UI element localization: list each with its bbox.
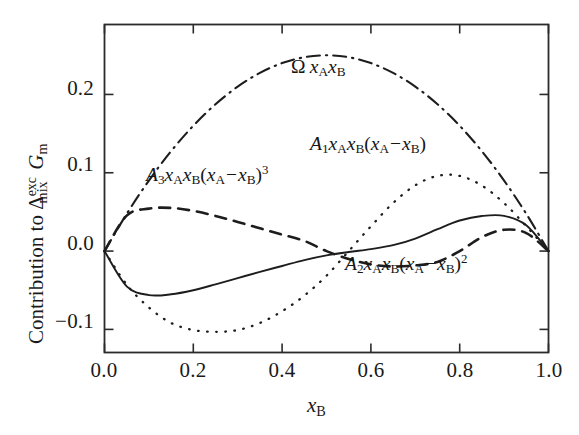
omega-sub-a: A xyxy=(318,64,328,79)
a3-index: 3 xyxy=(158,172,165,187)
curve-solid xyxy=(105,215,549,296)
a3-coef: A xyxy=(146,164,158,185)
a3-x1: x xyxy=(165,164,174,185)
y-axis-title-prefix: Contribution to xyxy=(24,210,48,344)
x-axis-title-var: x xyxy=(307,393,316,417)
a2-s3: A xyxy=(414,261,424,276)
a3-exp: 3 xyxy=(262,163,268,177)
data-curves xyxy=(105,55,549,332)
a1-x4: x xyxy=(402,133,411,154)
a2-minus: − xyxy=(424,253,437,274)
ytick-label-0: 0.2 xyxy=(38,76,94,101)
a3-s3: A xyxy=(215,172,225,187)
a1-index: 1 xyxy=(322,141,329,156)
a1-s1: A xyxy=(337,141,347,156)
curve-label-omega: ΩxAxB xyxy=(291,56,346,78)
omega-symbol: Ω xyxy=(291,56,306,77)
a2-x1: x xyxy=(364,253,373,274)
a3-s2: B xyxy=(191,172,200,187)
a3-x4: x xyxy=(238,164,247,185)
a1-close: ) xyxy=(420,133,427,154)
a1-s3: A xyxy=(379,141,389,156)
x-axis-title: xB xyxy=(307,393,326,418)
x-axis-title-sub: B xyxy=(316,403,326,419)
a2-x4: x xyxy=(437,253,446,274)
a3-s4: B xyxy=(247,172,256,187)
curve-label-a2: A2xAxB(xA−xB)2 xyxy=(345,253,467,275)
a2-coef: A xyxy=(345,253,357,274)
y-axis-title-sub: mix xyxy=(34,181,50,203)
a2-s4: B xyxy=(446,261,455,276)
xtick-label-5: 1.0 xyxy=(519,358,579,383)
a2-s1: A xyxy=(372,261,382,276)
xtick-label-1: 0.2 xyxy=(163,358,223,383)
a2-exp: 2 xyxy=(461,252,467,266)
xtick-label-4: 0.8 xyxy=(430,358,490,383)
curve-label-a1: A1xAxB(xA−xB) xyxy=(310,133,426,155)
a1-coef: A xyxy=(310,133,322,154)
xtick-label-0: 0.0 xyxy=(74,358,134,383)
omega-sub-b: B xyxy=(337,64,346,79)
a3-minus: − xyxy=(225,164,238,185)
a3-s1: A xyxy=(173,172,183,187)
curve-dotted xyxy=(105,175,549,332)
xtick-label-2: 0.4 xyxy=(252,358,312,383)
a1-s2: B xyxy=(355,141,364,156)
a2-s2: B xyxy=(390,261,399,276)
a1-minus: − xyxy=(389,133,402,154)
xtick-label-3: 0.6 xyxy=(341,358,401,383)
curve-label-a3: A3xAxB(xA−xB)3 xyxy=(146,164,268,186)
figure-container: 0.2 0.1 0.0 −0.1 0.0 0.2 0.4 0.6 0.8 1.0… xyxy=(0,0,579,435)
a2-index: 2 xyxy=(357,261,364,276)
omega-x2: x xyxy=(328,56,337,77)
y-axis-title: Contribution to ΔexcmixGm xyxy=(24,143,49,344)
y-axis-title-g-sub: m xyxy=(34,143,50,154)
a1-x1: x xyxy=(329,133,338,154)
a1-s4: B xyxy=(411,141,420,156)
y-axis-title-g: G xyxy=(24,155,48,170)
